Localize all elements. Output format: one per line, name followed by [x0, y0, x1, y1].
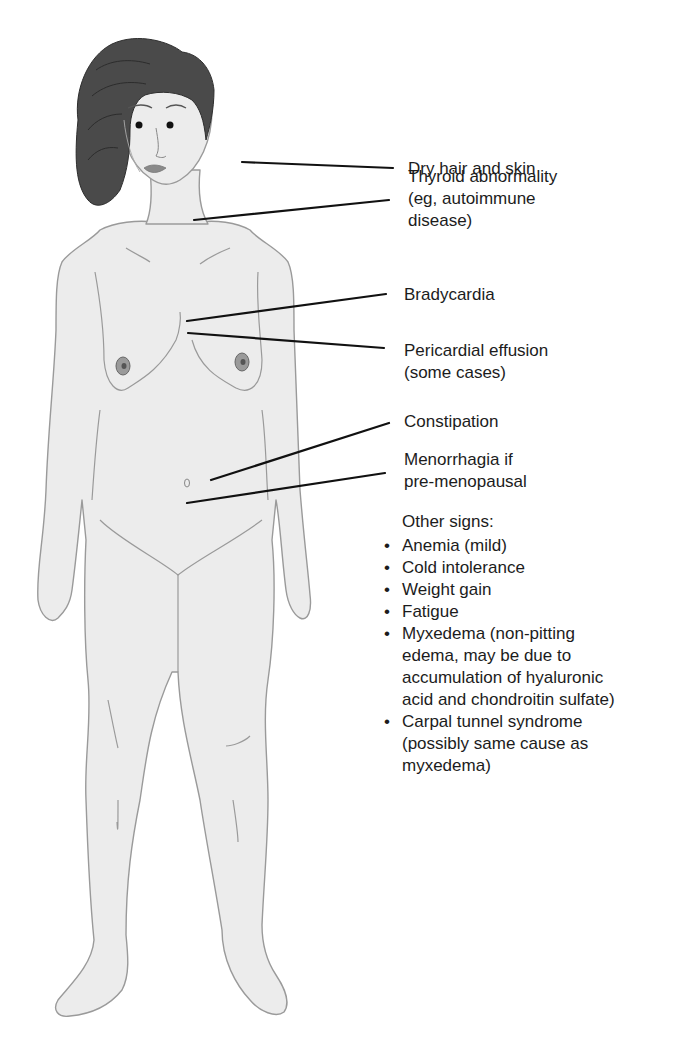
label-pericardial-effusion: Pericardial effusion (some cases) — [404, 340, 548, 384]
item-line: Cold intolerance — [402, 557, 615, 579]
leader-line-thyroid — [194, 200, 389, 220]
item-line: Carpal tunnel syndrome — [402, 711, 615, 733]
item-line: acid and chondroitin sulfate) — [402, 689, 615, 711]
other-signs-items: • Anemia (mild) • Cold intolerance • Wei… — [402, 535, 615, 777]
label-line: (eg, autoimmune — [408, 188, 557, 210]
label-line: Thyroid abnormality — [408, 166, 557, 188]
list-item: • Anemia (mild) — [402, 535, 615, 557]
bullet-icon: • — [384, 623, 390, 645]
body-outline — [38, 60, 311, 1016]
label-thyroid-abnormality: Thyroid abnormality (eg, autoimmune dise… — [408, 166, 557, 232]
label-line: Constipation — [404, 411, 499, 433]
item-line: accumulation of hyaluronic — [402, 667, 615, 689]
label-menorrhagia: Menorrhagia if pre-menopausal — [404, 449, 527, 493]
list-item: • Myxedema (non-pitting edema, may be du… — [402, 623, 615, 711]
label-line: Bradycardia — [404, 284, 495, 306]
item-line: Weight gain — [402, 579, 615, 601]
item-line: Fatigue — [402, 601, 615, 623]
label-constipation: Constipation — [404, 411, 499, 433]
label-line: pre-menopausal — [404, 471, 527, 493]
bullet-icon: • — [384, 535, 390, 557]
item-line: (possibly same cause as — [402, 733, 615, 755]
item-line: myxedema) — [402, 755, 615, 777]
list-item: • Carpal tunnel syndrome (possibly same … — [402, 711, 615, 777]
label-bradycardia: Bradycardia — [404, 284, 495, 306]
list-item: • Weight gain — [402, 579, 615, 601]
bullet-icon: • — [384, 711, 390, 733]
bullet-icon: • — [384, 579, 390, 601]
other-signs-list: Other signs: • Anemia (mild) • Cold into… — [402, 511, 615, 777]
list-item: • Cold intolerance — [402, 557, 615, 579]
leader-line-dry-hair-skin — [242, 162, 393, 168]
label-line: Pericardial effusion — [404, 340, 548, 362]
item-line: edema, may be due to — [402, 645, 615, 667]
label-line: (some cases) — [404, 362, 548, 384]
label-line: disease) — [408, 210, 557, 232]
label-line: Menorrhagia if — [404, 449, 527, 471]
item-line: Anemia (mild) — [402, 535, 615, 557]
bullet-icon: • — [384, 557, 390, 579]
item-line: Myxedema (non-pitting — [402, 623, 615, 645]
list-item: • Fatigue — [402, 601, 615, 623]
bullet-icon: • — [384, 601, 390, 623]
other-signs-heading: Other signs: — [402, 511, 615, 533]
